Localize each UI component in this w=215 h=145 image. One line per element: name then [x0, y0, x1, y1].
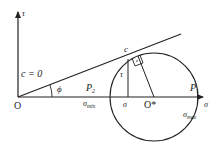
- sigma-max-label: σmax: [183, 110, 197, 120]
- sigma-axis-label: σ: [204, 100, 209, 109]
- phi-label: ϕ: [57, 84, 62, 94]
- p1-label: P1: [189, 82, 199, 94]
- right-angle-dot: [136, 60, 138, 62]
- radius-line: [138, 56, 154, 97]
- failure-envelope-line: [18, 34, 181, 97]
- circle-center-label: O*: [144, 99, 156, 110]
- stress-sigma-label: σ: [123, 100, 128, 109]
- tangent-point-label: c: [124, 44, 128, 54]
- phi-angle-arc: [50, 85, 52, 97]
- mohr-circle-diagram: τ σ O c = 0 ϕ P2 P1 σmin σmax c τ σ O*: [0, 0, 215, 145]
- cohesion-label: c = 0: [21, 68, 42, 79]
- sigma-min-label: σmin: [83, 99, 95, 109]
- tau-axis-label: τ: [22, 9, 26, 18]
- origin-label: O: [14, 100, 21, 111]
- p2-label: P2: [85, 82, 95, 94]
- stress-tau-label: τ: [120, 70, 124, 79]
